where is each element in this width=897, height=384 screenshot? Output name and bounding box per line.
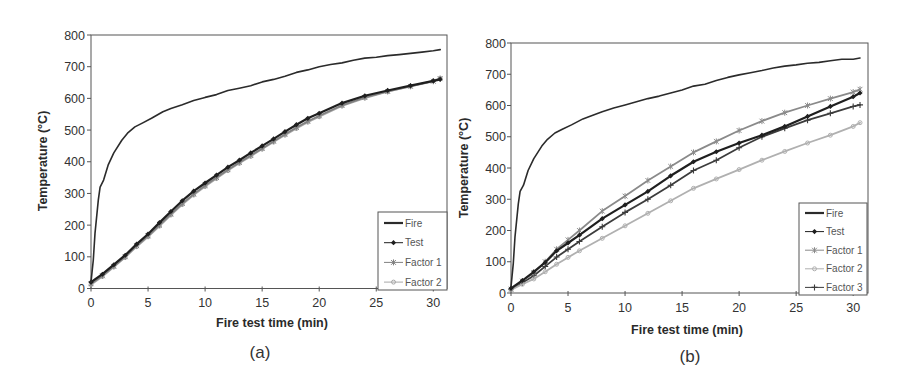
chart-a-ylabel: Temperature (°C) [36, 111, 50, 212]
chart-a-legend-item-factor-1-label: Factor 1 [405, 257, 442, 268]
chart-b: Temperature (°C) Fire test time (min) (b… [457, 118, 743, 366]
chart-a-xtick-label: 5 [145, 296, 152, 310]
chart-a-xtick-label: 10 [198, 296, 212, 310]
chart-a-ytick-label: 700 [64, 60, 85, 74]
chart-a-legend-item-factor-2-label: Factor 2 [405, 277, 442, 288]
chart-a-ytick-label: 100 [64, 250, 85, 264]
chart-b-legend: FireTestFactor 1Factor 2Factor 3 [799, 203, 867, 295]
chart-b-xtick-label: 20 [732, 301, 746, 315]
chart-a-ytick-label: 500 [64, 124, 85, 138]
chart-b-ytick-label: 600 [485, 99, 506, 113]
chart-b-xtick-label: 15 [675, 301, 689, 315]
chart-a-ytick-label: 600 [64, 92, 85, 106]
chart-b-ytick-label: 400 [485, 162, 506, 176]
chart-a-xtick-label: 25 [369, 296, 383, 310]
chart-b-ytick-label: 500 [485, 130, 506, 144]
chart-a-ytick-label: 800 [64, 29, 85, 43]
figure: Temperature (°C) Fire test time (min) (a… [0, 0, 897, 384]
chart-a-xlabel: Fire test time (min) [216, 316, 328, 330]
chart-b-series-factor-3-point [850, 103, 856, 109]
chart-a-xtick-label: 20 [312, 296, 326, 310]
chart-a-plot: 0100200300400500600700800051015202530Fir… [64, 29, 447, 311]
chart-a-ytick-label: 300 [64, 187, 85, 201]
chart-b-legend-item-factor-3-label: Factor 3 [826, 282, 863, 293]
chart-b-ytick-label: 300 [485, 193, 506, 207]
chart-b-xtick-label: 5 [565, 301, 572, 315]
chart-a: Temperature (°C) Fire test time (min) (a… [36, 111, 328, 362]
chart-b-legend-item-factor-2-label: Factor 2 [826, 263, 863, 274]
chart-b-panel-label: (b) [680, 347, 701, 366]
chart-a-legend-item-test-label: Test [405, 237, 424, 248]
chart-a-legend: FireTestFactor 1Factor 2 [378, 212, 447, 290]
chart-b-ytick-label: 100 [485, 255, 506, 269]
chart-b-ylabel: Temperature (°C) [457, 118, 471, 219]
chart-b-plot: 0100200300400500600700800051015202530Fir… [485, 37, 868, 316]
chart-a-ytick-label: 400 [64, 155, 85, 169]
chart-a-legend-item-fire-label: Fire [405, 218, 423, 229]
chart-b-series-factor-3-point [827, 110, 833, 116]
chart-b-xtick-label: 10 [618, 301, 632, 315]
chart-a-panel-label: (a) [250, 343, 271, 362]
chart-b-series-factor-1-point [623, 193, 628, 199]
chart-a-xtick-label: 15 [255, 296, 269, 310]
chart-b-legend-item-factor-1-label: Factor 1 [826, 245, 863, 256]
chart-b-series-factor-3-point [857, 102, 863, 108]
chart-a-xtick-label: 0 [88, 296, 95, 310]
chart-a-ytick-label: 0 [78, 282, 85, 296]
chart-b-xtick-label: 30 [846, 301, 860, 315]
chart-b-ytick-label: 800 [485, 37, 506, 51]
chart-b-legend-item-test-label: Test [826, 226, 845, 237]
chart-b-xtick-label: 0 [508, 301, 515, 315]
chart-b-series-factor-1-point [600, 208, 605, 214]
chart-b-xtick-label: 25 [789, 301, 803, 315]
chart-b-ytick-label: 200 [485, 224, 506, 238]
chart-a-xtick-label: 30 [426, 296, 440, 310]
chart-b-xlabel: Fire test time (min) [631, 323, 743, 337]
chart-b-ytick-label: 0 [499, 287, 506, 301]
chart-b-legend-item-fire-label: Fire [826, 208, 844, 219]
chart-b-ytick-label: 700 [485, 68, 506, 82]
chart-a-ytick-label: 200 [64, 219, 85, 233]
